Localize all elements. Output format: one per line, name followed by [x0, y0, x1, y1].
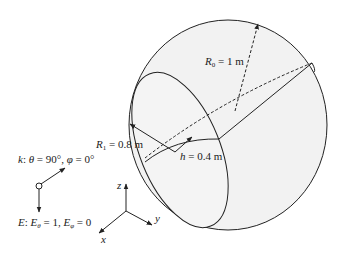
z-axis-label: z [117, 180, 121, 191]
h-label: h = 0.4 m [180, 151, 222, 162]
x-axis [99, 211, 126, 233]
r1-label: R1 = 0.8 m [96, 139, 143, 152]
r0-label: R0 = 1 m [205, 56, 244, 69]
k-arrow [41, 168, 65, 184]
e-label: E: Eθ = 1, Eφ = 0 [18, 217, 91, 230]
k-label: k: θ = 90°, φ = 0° [18, 154, 94, 165]
y-axis [126, 211, 152, 225]
x-axis-label: x [101, 234, 106, 245]
y-axis-label: y [155, 213, 160, 224]
